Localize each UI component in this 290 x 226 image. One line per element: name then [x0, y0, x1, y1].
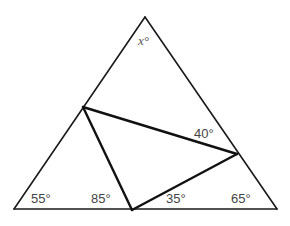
bottom-right-angle-label: 65° [231, 191, 251, 206]
outer-left-side [14, 17, 145, 209]
right-inner-angle-label: 40° [194, 126, 214, 141]
bottom-mid-left-angle-label: 85° [91, 191, 111, 206]
outer-right-side [145, 17, 277, 209]
bottom-left-angle-label: 55° [31, 191, 51, 206]
apex-angle-label: x° [137, 33, 149, 48]
inner-top-side [83, 107, 237, 154]
geometry-diagram: x° 40° 55° 85° 35° 65° [0, 0, 290, 226]
bottom-mid-right-angle-label: 35° [166, 191, 186, 206]
